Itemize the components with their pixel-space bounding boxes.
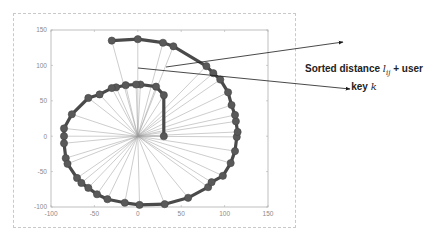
spiral-node-marker <box>68 111 75 118</box>
spiral-node-marker <box>170 43 177 50</box>
distance-ray <box>67 136 137 164</box>
spiral-node-marker <box>78 179 85 186</box>
spiral-node-marker <box>224 89 231 96</box>
distance-ray <box>138 80 220 137</box>
distance-ray <box>138 136 235 151</box>
spiral-node-marker <box>219 172 226 179</box>
x-tick-label: 0 <box>136 210 140 217</box>
distance-ray <box>138 136 231 163</box>
y-tick-label: -50 <box>38 168 48 175</box>
spiral-node-marker <box>159 39 166 46</box>
distance-ray <box>107 136 137 199</box>
spiral-node-marker <box>96 91 103 98</box>
spiral-node-marker <box>234 128 241 135</box>
y-tick-label: 150 <box>36 26 47 33</box>
y-tick-label: 0 <box>43 133 47 140</box>
spiral-node-marker <box>132 81 139 88</box>
spiral-node-marker <box>60 133 67 140</box>
x-tick-label: 100 <box>219 210 230 217</box>
distance-ray <box>138 46 174 136</box>
spiral-node-marker <box>185 194 192 201</box>
distance-ray <box>136 85 138 137</box>
spiral-node-marker <box>161 201 168 208</box>
annotation-label: Sorted distance lij + user key k <box>300 62 428 93</box>
y-tick-label: 50 <box>40 97 48 104</box>
spiral-node-marker <box>232 118 239 125</box>
x-tick-label: 50 <box>178 210 186 217</box>
spiral-node-marker <box>231 111 238 118</box>
spiral-node-marker <box>60 125 67 132</box>
y-tick-label: -100 <box>34 203 47 210</box>
distance-ray <box>88 98 137 136</box>
distance-ray <box>138 136 237 137</box>
spiral-node-marker <box>231 147 238 154</box>
spiral-node-marker <box>93 191 100 198</box>
distance-ray <box>138 136 140 205</box>
spiral-node-marker <box>160 133 167 140</box>
spiral-node-marker <box>85 184 92 191</box>
x-tick-label: 150 <box>263 210 274 217</box>
distance-ray <box>126 85 138 136</box>
spiral-node-marker <box>108 84 115 91</box>
distance-ray <box>138 136 165 204</box>
x-tick-label: -100 <box>44 210 57 217</box>
distance-ray <box>138 66 207 136</box>
annotation-line1-suffix: + user <box>390 63 423 74</box>
spiral-node-marker <box>108 37 115 44</box>
spiral-chart: -100-50050100150150100500-50-100 <box>0 0 430 246</box>
annotation-line1-text: Sorted distance <box>305 63 383 74</box>
distance-ray <box>138 105 232 136</box>
spiral-node-marker <box>121 199 128 206</box>
spiral-node-marker <box>208 179 215 186</box>
spiral-node-marker <box>60 140 67 147</box>
distance-ray <box>138 136 212 182</box>
spiral-node-marker <box>85 94 92 101</box>
spiral-node-marker <box>227 160 234 167</box>
spiral-node-marker <box>152 83 159 90</box>
spiral-node-marker <box>64 160 71 167</box>
spiral-node-marker <box>203 63 210 70</box>
annotation-line2-text: key <box>351 81 370 92</box>
spiral-node-marker <box>122 82 129 89</box>
distance-ray <box>138 115 235 136</box>
spiral-node-marker <box>217 76 224 83</box>
distance-ray <box>116 87 138 136</box>
spiral-node-marker <box>134 36 141 43</box>
spiral-node-marker <box>228 101 235 108</box>
x-tick-label: -50 <box>90 210 100 217</box>
spiral-node-marker <box>160 92 167 99</box>
y-tick-label: 100 <box>36 62 47 69</box>
spiral-node-marker <box>136 201 143 208</box>
distance-ray <box>77 136 138 178</box>
math-k: k <box>371 81 377 92</box>
spiral-node-marker <box>104 196 111 203</box>
distance-ray <box>138 136 223 176</box>
distance-ray <box>125 136 138 203</box>
